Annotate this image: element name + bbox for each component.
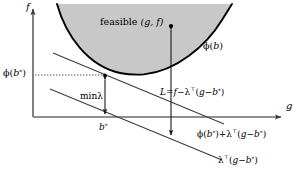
lambda-glyph: λ	[97, 91, 103, 101]
supporting-line-label: ϕ(b⁎)+λ⊤(g−b⁎)	[197, 129, 266, 139]
eq-sign: =	[166, 87, 174, 97]
b-star-glyph: ⁎	[105, 121, 108, 127]
paren-close-L: )	[221, 87, 225, 97]
figure-canvas: f g feasible (g, f) ϕ(b) ϕ(b⁎) b⁎ minλ L…	[0, 0, 303, 172]
tangent-contact-point	[103, 73, 106, 76]
dash-ll: −	[238, 155, 246, 165]
feasible-region-label: feasible (g, f)	[100, 17, 164, 27]
lagrangian-label: L=f−λ⊤(g−b⁎)	[160, 87, 224, 97]
lambda-line	[50, 89, 222, 160]
x-axis-label: g	[286, 101, 292, 111]
paren-close2-sup: )	[263, 129, 267, 139]
feasible-word: feasible	[100, 16, 137, 27]
y-axis-label: f	[26, 2, 30, 12]
min-word: min	[80, 91, 97, 101]
lambda-line-label: λ⊤(g−b⁎)	[218, 155, 258, 165]
dash-sup: −	[247, 129, 255, 139]
b-star-label: b⁎	[99, 122, 108, 132]
phi-bstar-axis-label: ϕ(b⁎)	[3, 68, 26, 78]
phi-curve-label: ϕ(b)	[203, 41, 223, 51]
feasible-point-dot	[169, 24, 173, 28]
paren-close-ll: )	[254, 155, 258, 165]
min-lambda-label: minλ	[80, 92, 103, 101]
feasible-args: (g, f)	[141, 16, 164, 27]
